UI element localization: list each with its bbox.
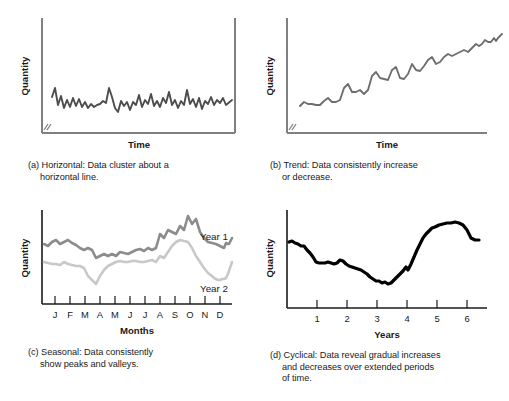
x-tick-label: 5 [434, 313, 439, 324]
x-axis-ticks [55, 296, 220, 304]
panel-a-caption: (a) Horizontal: Data cluster about a hor… [28, 160, 243, 183]
x-tick-label: D [217, 309, 224, 320]
panel-d-caption-line2: and decreases over extended periods [270, 362, 505, 374]
series-observations [289, 222, 479, 284]
x-tick-label: 6 [464, 313, 469, 324]
y-axis-label: Quantity [264, 56, 275, 96]
x-tick-label: 3 [374, 313, 379, 324]
x-tick-label: A [97, 309, 104, 320]
series-observations [300, 34, 502, 106]
x-tick-labels: 1 2 3 4 5 6 [314, 313, 469, 324]
x-axis-label: Time [376, 139, 398, 150]
x-tick-label: J [53, 309, 58, 320]
panel-b-trend: Quantity Time (b) Trend: Data consistent… [255, 0, 509, 200]
figure-grid: Quantity Time (a) Horizontal: Data clust… [0, 0, 509, 401]
y-axis-label: Quantity [19, 238, 30, 278]
x-axis-label: Months [120, 325, 154, 336]
x-tick-label: 4 [404, 313, 409, 324]
panel-a-caption-line1: Horizontal: Data cluster about a [42, 160, 169, 170]
x-axis-label: Years [374, 329, 400, 340]
x-axis-ticks [317, 300, 467, 308]
axis-break-icon [44, 124, 51, 130]
series-label-year-2: Year 2 [200, 283, 228, 294]
panel-c-caption-line2: show peaks and valleys. [28, 359, 243, 371]
x-tick-labels: J F M A M J J A S O N D [53, 309, 224, 320]
x-tick-label: O [186, 309, 193, 320]
y-axis-label: Quantity [19, 56, 30, 96]
series-label-year-1: Year 1 [200, 231, 228, 242]
panel-a-horizontal: Quantity Time (a) Horizontal: Data clust… [0, 0, 255, 200]
panel-d-caption-line3: of time. [270, 373, 505, 385]
panel-d-cyclical: 1 2 3 4 5 6 Quantity Years (d) Cyclical:… [255, 200, 509, 401]
panel-c-plot: Year 1 Year 2 J F M A M J J A S O N D Qu… [0, 200, 255, 401]
x-tick-label: N [202, 309, 209, 320]
x-tick-label: 2 [344, 313, 349, 324]
panel-d-caption-tag: (d) [270, 350, 284, 360]
x-tick-label: M [81, 309, 89, 320]
panel-c-caption: (c) Seasonal: Data consistently show pea… [28, 347, 243, 370]
series-year-2 [44, 240, 232, 284]
panel-c-caption-tag: (c) [28, 347, 41, 357]
x-tick-label: J [143, 309, 148, 320]
panel-c-caption-line1: Seasonal: Data consistently [41, 347, 153, 357]
x-axis-label: Time [128, 139, 150, 150]
x-tick-label: J [128, 309, 133, 320]
x-tick-label: 1 [314, 313, 319, 324]
x-tick-label: A [157, 309, 164, 320]
panel-d-caption: (d) Cyclical: Data reveal gradual increa… [270, 350, 505, 385]
panel-b-caption: (b) Trend: Data consistently increase or… [270, 160, 498, 183]
panel-b-caption-line2: or decrease. [270, 172, 498, 184]
y-axis-label: Quantity [264, 238, 275, 278]
panel-a-caption-tag: (a) [28, 160, 42, 170]
x-tick-label: S [172, 309, 178, 320]
panel-a-caption-line2: horizontal line. [28, 172, 243, 184]
series-observations [52, 88, 232, 112]
panel-c-seasonal: Year 1 Year 2 J F M A M J J A S O N D Qu… [0, 200, 255, 401]
panel-b-caption-tag: (b) [270, 160, 283, 170]
x-tick-label: M [111, 309, 119, 320]
x-tick-label: F [67, 309, 73, 320]
panel-b-caption-line1: Trend: Data consistently increase [283, 160, 417, 170]
panel-d-caption-line1: Cyclical: Data reveal gradual increases [284, 350, 441, 360]
axis-break-icon [289, 124, 296, 130]
